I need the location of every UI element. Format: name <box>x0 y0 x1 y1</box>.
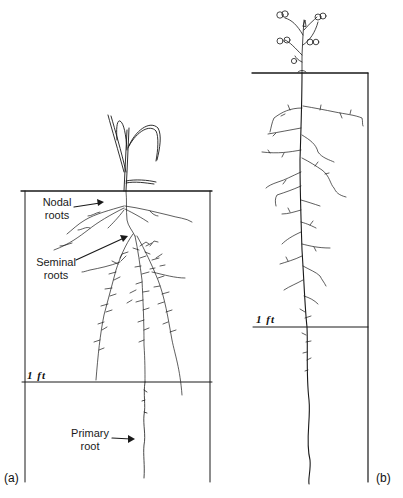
panel-a-1ft-marker: 1 ft <box>27 369 46 381</box>
seminal-roots-label: Seminal roots <box>32 256 80 282</box>
panel-b-taproot <box>262 73 363 484</box>
panel-b-frame <box>252 73 368 482</box>
panel-a-shoot <box>108 115 160 191</box>
panel-a-arrows <box>74 199 135 443</box>
panel-a-tag: (a) <box>4 471 19 485</box>
primary-root-label: Primary root <box>68 427 112 453</box>
seminal-roots-label-line1: Seminal <box>32 256 80 269</box>
seminal-roots-arrow <box>76 238 124 260</box>
nodal-roots-label-line1: Nodal <box>38 196 76 209</box>
panel-b-shoot <box>277 11 326 73</box>
nodal-roots-label-line2: roots <box>38 209 76 222</box>
panel-b-tag: (b) <box>376 471 391 485</box>
root-diagram <box>0 0 403 498</box>
panel-a-primary-root <box>142 382 147 478</box>
nodal-roots-arrow <box>74 203 100 207</box>
primary-root-label-line2: root <box>68 440 112 453</box>
panel-a-seminal-roots <box>82 191 185 395</box>
nodal-roots-label: Nodal roots <box>38 196 76 222</box>
panel-b-1ft-marker: 1 ft <box>256 313 275 325</box>
seminal-roots-label-line2: roots <box>32 269 80 282</box>
primary-root-label-line1: Primary <box>68 427 112 440</box>
